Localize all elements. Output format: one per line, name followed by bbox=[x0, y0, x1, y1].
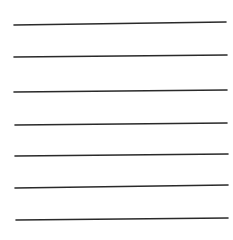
paper-background bbox=[0, 0, 233, 240]
ruled-lines-canvas bbox=[0, 0, 233, 240]
